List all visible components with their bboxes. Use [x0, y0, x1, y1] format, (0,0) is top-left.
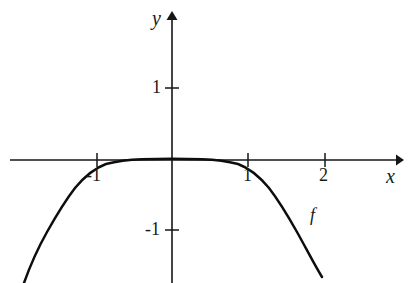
y-axis-label: y	[152, 8, 161, 28]
y-tick-label-1: 1	[152, 78, 161, 96]
x-axis-arrow-icon	[396, 155, 404, 166]
function-plot-figure: y x f 1 -1 -1 1 2	[0, 0, 411, 283]
plot-canvas	[0, 0, 411, 283]
function-curve-f	[24, 159, 322, 283]
x-tick-label-neg1: -1	[86, 166, 101, 184]
x-tick-label-1: 1	[243, 166, 252, 184]
x-tick-label-2: 2	[319, 166, 328, 184]
y-axis-arrow-icon	[167, 11, 178, 20]
y-tick-label-neg1: -1	[145, 220, 160, 238]
curve-label-f: f	[310, 206, 315, 224]
x-axis-label: x	[386, 166, 395, 186]
